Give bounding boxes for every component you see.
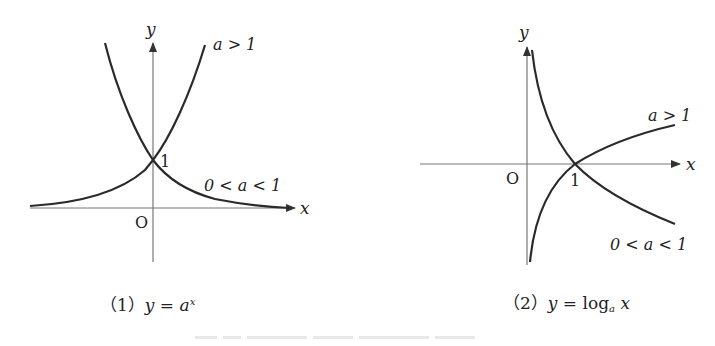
y-axis-label: y	[145, 19, 156, 39]
x-axis-label: x	[300, 198, 310, 218]
caption-number: （1）	[100, 295, 145, 315]
caption-y: y	[145, 295, 155, 315]
origin-label: O	[506, 169, 519, 188]
caption-equals-log: = log	[557, 293, 609, 313]
figure-caption-cropped	[195, 336, 515, 346]
curve-a-between-0-and-1	[532, 50, 675, 224]
caption-logarithm: （2）y = loga x	[503, 289, 630, 314]
intercept-label: 1	[570, 171, 580, 190]
caption-exponent: x	[190, 296, 196, 307]
curve-a-greater-than-1	[30, 45, 205, 206]
caption-equals: =	[154, 295, 179, 315]
caption-y: y	[548, 293, 558, 313]
caption-x: x	[615, 293, 630, 313]
series-label-a-gt-1: a > 1	[213, 35, 256, 54]
series-label-a-lt-1: 0 < a < 1	[204, 176, 281, 195]
logarithm-chart: y x O 1 a > 1 0 < a < 1	[420, 22, 696, 265]
series-label-a-gt-1: a > 1	[648, 106, 691, 125]
x-axis-label: x	[686, 154, 696, 174]
origin-label: O	[135, 213, 148, 232]
intercept-label: 1	[160, 152, 170, 171]
caption-base: a	[180, 295, 190, 315]
exponential-chart: y x O 1 a > 1 0 < a < 1	[30, 19, 310, 262]
caption-exponential: （1）y = ax	[100, 291, 195, 316]
y-axis-label: y	[518, 22, 529, 42]
series-label-a-lt-1: 0 < a < 1	[610, 235, 687, 254]
caption-number: （2）	[503, 293, 548, 313]
